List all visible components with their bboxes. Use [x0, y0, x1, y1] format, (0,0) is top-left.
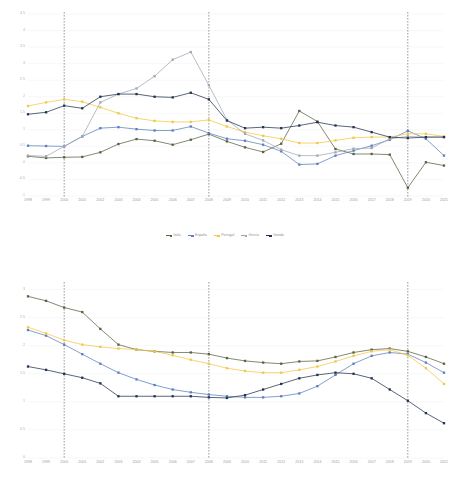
x-axis-tick-label: 2021 — [434, 461, 450, 465]
data-point — [298, 377, 300, 379]
x-axis-tick-label: 2017 — [362, 199, 382, 203]
x-axis-tick-label: 2004 — [127, 461, 147, 465]
data-point — [99, 346, 101, 348]
data-point — [407, 187, 409, 189]
data-point — [352, 351, 354, 353]
data-point — [135, 349, 137, 351]
data-point — [135, 117, 137, 119]
data-point — [190, 51, 192, 53]
data-point — [45, 334, 47, 336]
x-axis-tick-label: 2012 — [271, 199, 291, 203]
data-point — [316, 385, 318, 387]
data-point — [208, 132, 210, 134]
data-point — [425, 367, 427, 369]
data-point — [334, 151, 336, 153]
data-point — [425, 161, 427, 163]
top-chart-legend: ItaliaEspañaPortugalGreciaIrlanda — [0, 234, 450, 238]
y-axis-tick-label: 3.5 — [9, 45, 25, 49]
data-point — [298, 369, 300, 371]
data-point — [298, 392, 300, 394]
data-point — [45, 101, 47, 103]
data-point — [407, 354, 409, 356]
data-point — [135, 93, 137, 95]
data-point — [226, 140, 228, 142]
data-point — [153, 350, 155, 352]
data-point — [172, 96, 174, 98]
data-point — [389, 153, 391, 155]
data-point — [389, 388, 391, 390]
data-point — [262, 396, 264, 398]
data-point — [208, 396, 210, 398]
data-point — [371, 131, 373, 133]
data-point — [99, 328, 101, 330]
data-point — [81, 353, 83, 355]
x-axis-tick-label: 2008 — [199, 461, 219, 465]
data-point — [27, 365, 29, 367]
y-axis-tick-label: 2.5 — [9, 316, 25, 320]
x-axis-tick-label: 2010 — [235, 199, 255, 203]
data-point — [280, 138, 282, 140]
data-point — [407, 400, 409, 402]
data-point — [208, 84, 210, 86]
data-point — [172, 129, 174, 131]
data-point — [153, 129, 155, 131]
data-point — [190, 359, 192, 361]
x-axis-tick-label: 2013 — [289, 199, 309, 203]
x-axis-tick-label: 2000 — [54, 199, 74, 203]
legend-label: España — [195, 234, 207, 238]
legend-item-españa[interactable]: España — [188, 234, 207, 238]
legend-item-irlanda[interactable]: Irlanda — [266, 234, 284, 238]
data-point — [244, 360, 246, 362]
data-point — [117, 112, 119, 114]
x-axis-tick-label: 2012 — [271, 461, 291, 465]
data-point — [334, 374, 336, 376]
data-point — [244, 396, 246, 398]
x-axis-tick-label: 2005 — [145, 461, 165, 465]
y-axis-tick-label: 2.5 — [9, 78, 25, 82]
data-point — [27, 113, 29, 115]
data-point — [226, 119, 228, 121]
data-point — [135, 87, 137, 89]
legend-label: Portugal — [221, 234, 234, 238]
legend-item-grecia[interactable]: Grecia — [241, 234, 259, 238]
data-point — [262, 388, 264, 390]
x-axis-tick-label: 2009 — [217, 461, 237, 465]
data-point — [27, 145, 29, 147]
data-point — [45, 145, 47, 147]
data-point — [244, 146, 246, 148]
x-axis-tick-label: 2011 — [253, 461, 273, 465]
x-axis-tick-label: 2007 — [181, 199, 201, 203]
data-point — [99, 363, 101, 365]
figure-container: 4.543.532.521.510.50-0.5-119981999200020… — [0, 0, 450, 493]
data-point — [99, 151, 101, 153]
data-point — [316, 142, 318, 144]
data-point — [334, 356, 336, 358]
x-axis-tick-label: 2001 — [72, 199, 92, 203]
data-point — [172, 144, 174, 146]
data-point — [298, 110, 300, 112]
data-point — [135, 138, 137, 140]
legend-label: Italia — [173, 234, 180, 238]
data-point — [63, 156, 65, 158]
data-point — [153, 75, 155, 77]
data-point — [407, 130, 409, 132]
x-axis-tick-label: 2000 — [54, 461, 74, 465]
data-point — [262, 139, 264, 141]
data-point — [99, 101, 101, 103]
data-point — [117, 372, 119, 374]
data-point — [226, 357, 228, 359]
data-point — [371, 355, 373, 357]
data-point — [352, 363, 354, 365]
data-point — [352, 373, 354, 375]
data-point — [352, 126, 354, 128]
y-axis-tick-label: 0.5 — [9, 428, 25, 432]
legend-marker-swatch — [269, 235, 271, 237]
series-line-irlanda — [28, 93, 444, 138]
data-point — [208, 98, 210, 100]
legend-item-portugal[interactable]: Portugal — [214, 234, 234, 238]
data-point — [352, 148, 354, 150]
legend-label: Grecia — [249, 234, 259, 238]
legend-item-italia[interactable]: Italia — [166, 234, 181, 238]
data-point — [226, 125, 228, 127]
data-point — [172, 59, 174, 61]
